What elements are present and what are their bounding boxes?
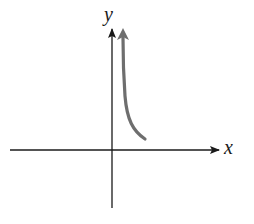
graph-canvas xyxy=(0,0,254,224)
function-curve xyxy=(123,38,145,139)
y-axis-label: y xyxy=(104,4,113,24)
x-axis-label: x xyxy=(224,137,233,157)
